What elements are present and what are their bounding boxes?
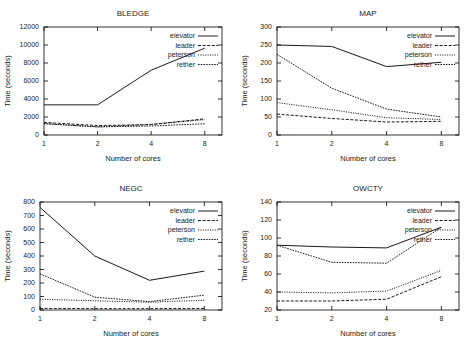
y-tick-label: 40 — [264, 288, 272, 295]
chart-title: BLEDGE — [117, 9, 149, 18]
x-axis-label: Number of cores — [340, 154, 396, 163]
y-tick-label: 12000 — [20, 23, 40, 30]
x-tick-label: 8 — [203, 140, 207, 147]
x-axis-label: Number of cores — [105, 154, 161, 163]
y-tick-label: 50 — [264, 113, 272, 120]
y-tick-label: 300 — [23, 266, 35, 273]
legend-label-peterson: peterson — [405, 51, 432, 59]
x-tick-label: 4 — [148, 315, 152, 322]
x-tick-label: 1 — [275, 315, 279, 322]
y-tick-label: 0 — [268, 131, 272, 138]
chart-panel-owcty: OWCTY204060801001201401248Number of core… — [237, 175, 473, 350]
y-tick-label: 200 — [260, 59, 272, 66]
y-tick-label: 100 — [260, 95, 272, 102]
y-tick-label: 4000 — [23, 95, 39, 102]
legend-label-leader: leader — [413, 42, 433, 49]
chart-svg-map: MAP0501001502002503001248Number of cores… — [237, 0, 473, 175]
x-tick-label: 4 — [385, 315, 389, 322]
chart-panel-negc: NEGC01002003004005006007008001248Number … — [0, 175, 236, 350]
series-line-leader — [277, 114, 441, 122]
y-axis-label: Time (seconds) — [240, 55, 249, 107]
y-tick-label: 250 — [260, 41, 272, 48]
series-line-leader — [277, 277, 441, 301]
x-tick-label: 4 — [149, 140, 153, 147]
figure-multi-panel-line-charts: BLEDGE0200040006000800010000120001248Num… — [0, 0, 473, 350]
plot-frame — [44, 27, 222, 135]
y-tick-label: 20 — [264, 306, 272, 313]
y-tick-label: 60 — [264, 270, 272, 277]
y-tick-label: 0 — [31, 306, 35, 313]
y-tick-label: 150 — [260, 77, 272, 84]
legend-label-rether: rether — [414, 61, 433, 68]
y-tick-label: 2000 — [23, 113, 39, 120]
y-tick-label: 0 — [35, 131, 39, 138]
y-tick-label: 800 — [23, 198, 35, 205]
y-tick-label: 300 — [260, 23, 272, 30]
legend-label-rether: rether — [177, 236, 196, 243]
legend-label-elevator: elevator — [170, 207, 196, 214]
legend-label-leader: leader — [176, 42, 196, 49]
y-tick-label: 500 — [23, 239, 35, 246]
y-tick-label: 6000 — [23, 77, 39, 84]
legend-label-leader: leader — [413, 217, 433, 224]
legend-label-peterson: peterson — [168, 51, 195, 59]
y-tick-label: 140 — [260, 198, 272, 205]
x-tick-label: 1 — [38, 315, 42, 322]
x-tick-label: 1 — [275, 140, 279, 147]
legend-label-peterson: peterson — [168, 226, 195, 234]
chart-panel-bledge: BLEDGE0200040006000800010000120001248Num… — [0, 0, 236, 175]
legend-label-rether: rether — [414, 236, 433, 243]
chart-svg-negc: NEGC01002003004005006007008001248Number … — [0, 175, 236, 350]
y-axis-label: Time (seconds) — [3, 230, 12, 282]
series-line-peterson — [277, 270, 441, 293]
y-tick-label: 100 — [260, 234, 272, 241]
x-tick-label: 2 — [330, 315, 334, 322]
legend-label-peterson: peterson — [405, 226, 432, 234]
chart-title: NEGC — [119, 184, 142, 193]
x-tick-label: 4 — [385, 140, 389, 147]
x-axis-label: Number of cores — [340, 329, 396, 338]
chart-svg-bledge: BLEDGE0200040006000800010000120001248Num… — [0, 0, 236, 175]
series-line-peterson — [277, 103, 441, 120]
y-tick-label: 200 — [23, 279, 35, 286]
x-tick-label: 8 — [439, 140, 443, 147]
series-line-peterson — [44, 120, 205, 127]
y-tick-label: 100 — [23, 293, 35, 300]
legend-label-leader: leader — [176, 217, 196, 224]
x-tick-label: 2 — [93, 315, 97, 322]
y-tick-label: 10000 — [20, 41, 40, 48]
legend-label-rether: rether — [177, 61, 196, 68]
y-tick-label: 80 — [264, 252, 272, 259]
chart-svg-owcty: OWCTY204060801001201401248Number of core… — [237, 175, 473, 350]
x-tick-label: 2 — [330, 140, 334, 147]
chart-title: OWCTY — [353, 184, 383, 193]
y-axis-label: Time (seconds) — [240, 230, 249, 282]
x-tick-label: 2 — [96, 140, 100, 147]
chart-panel-map: MAP0501001502002503001248Number of cores… — [237, 0, 473, 175]
legend-label-elevator: elevator — [407, 207, 433, 214]
y-axis-label: Time (seconds) — [3, 55, 12, 107]
y-tick-label: 600 — [23, 225, 35, 232]
y-tick-label: 700 — [23, 212, 35, 219]
legend-label-elevator: elevator — [170, 32, 196, 39]
y-tick-label: 120 — [260, 216, 272, 223]
x-tick-label: 8 — [202, 315, 206, 322]
chart-title: MAP — [359, 9, 376, 18]
legend-label-elevator: elevator — [407, 32, 433, 39]
y-tick-label: 8000 — [23, 59, 39, 66]
y-tick-label: 400 — [23, 252, 35, 259]
series-line-rether — [40, 274, 204, 302]
x-tick-label: 8 — [439, 315, 443, 322]
x-tick-label: 1 — [42, 140, 46, 147]
x-axis-label: Number of cores — [103, 329, 159, 338]
